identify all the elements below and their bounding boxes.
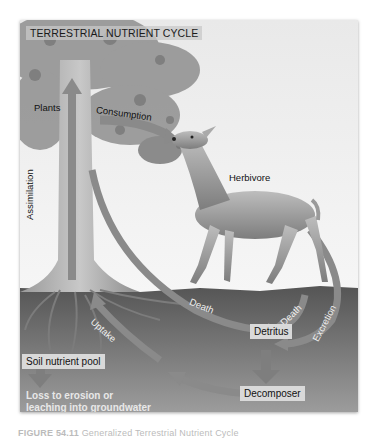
nutrient-cycle-diagram: TERRESTRIAL NUTRIENT CYCLE Plants Consum…: [20, 20, 358, 412]
plants-label: Plants: [34, 102, 60, 113]
herbivore-label: Herbivore: [229, 172, 270, 183]
detritus-box: Detritus: [250, 324, 292, 339]
loss-label-line2: leaching into groundwater: [26, 402, 151, 412]
decomposer-box: Decomposer: [240, 386, 305, 401]
deer-eye: [191, 136, 194, 139]
assimilation-label: Assimilation: [24, 169, 35, 220]
deer-nose: [172, 137, 176, 141]
caption-number: FIGURE 54.11: [18, 428, 79, 438]
loss-label: Loss to erosion or leaching into groundw…: [26, 390, 151, 412]
loss-label-line1: Loss to erosion or: [26, 390, 151, 402]
soil-nutrient-pool-box: Soil nutrient pool: [22, 354, 105, 369]
diagram-title: TERRESTRIAL NUTRIENT CYCLE: [26, 26, 202, 40]
figure-caption: FIGURE 54.11 Generalized Terrestrial Nut…: [18, 428, 239, 438]
caption-text: Generalized Terrestrial Nutrient Cycle: [82, 428, 239, 438]
